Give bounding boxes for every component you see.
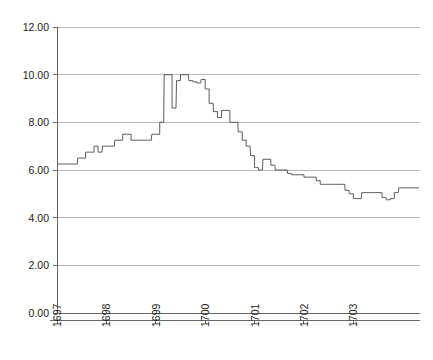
tickmarks-group (53, 27, 353, 324)
y-tick-label-8.00: 8.00 (29, 116, 50, 128)
y-tick-label-2.00: 2.00 (29, 259, 50, 271)
y-tick-label-4.00: 4.00 (29, 212, 50, 224)
x-tick-label-1703: 1703 (347, 303, 359, 327)
y-tick-label-10.00: 10.00 (23, 69, 49, 81)
x-tick-label-1702: 1702 (298, 303, 310, 327)
axis-lines-group (50, 27, 420, 320)
x-tick-label-1698: 1698 (100, 303, 112, 327)
x-tick-label-1699: 1699 (150, 303, 162, 327)
y-tick-label-0.00: 0.00 (29, 307, 50, 319)
series-line-value (57, 75, 419, 200)
x-tick-label-1701: 1701 (249, 303, 261, 327)
x-tick-label-1700: 1700 (199, 303, 211, 327)
x-axis-tick-labels: 1697169816991700170117021703 (51, 303, 359, 327)
y-tick-label-12.00: 12.00 (23, 21, 49, 33)
line-chart: 0.002.004.006.008.0010.0012.00 169716981… (0, 0, 433, 360)
chart-container: 0.002.004.006.008.0010.0012.00 169716981… (0, 0, 433, 360)
y-axis-tick-labels: 0.002.004.006.008.0010.0012.00 (23, 21, 49, 319)
x-tick-label-1697: 1697 (51, 303, 63, 327)
y-tick-label-6.00: 6.00 (29, 164, 50, 176)
data-series-group (57, 75, 419, 200)
